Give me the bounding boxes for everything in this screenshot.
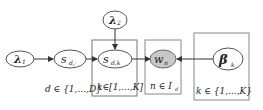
svg-text:β: β bbox=[218, 52, 228, 67]
svg-text:n: n bbox=[164, 59, 168, 66]
graphical-model-diagram: λ 1 s d,· λ 2 s d,k w n β k d ∈ {1,...,D… bbox=[0, 0, 263, 110]
node-beta-k: β k bbox=[213, 48, 243, 70]
node-lambda2: λ 2 bbox=[103, 11, 127, 29]
svg-text:s: s bbox=[61, 53, 67, 66]
svg-text:s: s bbox=[103, 53, 109, 66]
node-s-d: s d,· bbox=[54, 50, 86, 68]
svg-text:w: w bbox=[154, 53, 164, 66]
svg-text:k: k bbox=[231, 61, 235, 68]
plate-k-beta-label: k ∈ {1,...,K} bbox=[196, 86, 252, 96]
svg-text:2: 2 bbox=[116, 19, 121, 26]
node-s-dk: s d,k bbox=[98, 50, 132, 68]
plate-d-label: d ∈ {1,...,D} bbox=[45, 84, 102, 94]
svg-text:1: 1 bbox=[22, 58, 26, 65]
svg-text:d,·: d,· bbox=[69, 59, 77, 66]
svg-text:d,k: d,k bbox=[111, 59, 121, 66]
svg-text:n ∈ I: n ∈ I bbox=[150, 81, 172, 91]
node-lambda1: λ 1 bbox=[6, 51, 34, 67]
svg-text:λ: λ bbox=[108, 14, 117, 27]
plate-k-inner-label: k∈[1,...,K] bbox=[97, 82, 143, 92]
svg-text:λ: λ bbox=[13, 53, 22, 66]
node-w-n: w n bbox=[150, 50, 176, 68]
svg-text:d: d bbox=[175, 86, 178, 92]
plate-n-label: n ∈ I d bbox=[150, 81, 178, 92]
